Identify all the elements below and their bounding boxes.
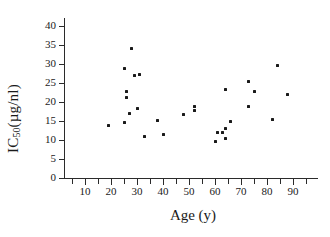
x-axis-minor-tick	[254, 179, 255, 184]
x-axis-tick-label-text: 60	[203, 186, 227, 197]
data-point	[276, 64, 279, 67]
data-point	[156, 119, 159, 122]
data-point	[107, 124, 110, 127]
y-axis-label-subscript: 50	[11, 127, 22, 137]
y-axis-tick-label: 15	[32, 115, 56, 127]
y-axis-tick-label: 35	[32, 39, 56, 51]
x-axis-tick-label: 60	[203, 186, 227, 199]
x-axis-tick-label-text: 50	[177, 186, 201, 197]
y-axis-tick-label: 25	[32, 77, 56, 89]
data-point	[253, 90, 256, 93]
x-axis-tick-label-text: 10	[73, 186, 97, 197]
x-axis-minor-tick	[98, 179, 99, 184]
y-axis-tick-label-text: 40	[34, 20, 56, 31]
data-point	[224, 127, 227, 130]
y-axis-tick-label-text: 10	[34, 134, 56, 145]
data-point	[216, 131, 219, 134]
y-axis-label: IC50 (µg/nl)	[0, 0, 26, 237]
x-axis-tick-label: 70	[229, 186, 253, 199]
y-axis-tick-label-text: 25	[34, 77, 56, 88]
x-axis-tick-label-text: 90	[281, 186, 305, 197]
x-axis-tick-label-text: 40	[151, 186, 175, 197]
y-axis-tick-label-text: 30	[34, 58, 56, 69]
y-axis-label-units: (µg/nl)	[5, 84, 22, 127]
x-axis-tick-label-text: 30	[125, 186, 149, 197]
data-point	[138, 73, 141, 76]
x-axis-tick-label-text: 70	[229, 186, 253, 197]
data-point	[221, 131, 224, 134]
data-point	[247, 105, 250, 108]
y-axis-tick-label-text: 15	[34, 115, 56, 126]
y-axis-tick-label-text: 5	[34, 153, 56, 164]
x-axis-tick-label: 90	[281, 186, 305, 199]
x-axis-minor-tick	[72, 179, 73, 184]
y-axis-tick-label: 30	[32, 58, 56, 70]
data-point	[247, 80, 250, 83]
x-axis-tick-label: 20	[99, 186, 123, 199]
data-point	[125, 96, 128, 99]
y-axis-tick-label: 10	[32, 134, 56, 146]
data-point	[162, 133, 165, 136]
x-axis-minor-tick	[228, 179, 229, 184]
x-axis-minor-tick	[150, 179, 151, 184]
y-axis-tick-label-text: 0	[34, 172, 56, 183]
x-axis-tick-label: 30	[125, 186, 149, 199]
plot-area	[64, 18, 318, 178]
x-axis-tick-label: 40	[151, 186, 175, 199]
x-axis-tick-label-text: 20	[99, 186, 123, 197]
data-point	[271, 118, 274, 121]
y-axis-tick-label: 5	[32, 153, 56, 165]
data-point	[123, 67, 126, 70]
y-axis-tick-label: 40	[32, 20, 56, 32]
x-axis-minor-tick	[176, 179, 177, 184]
data-point	[224, 88, 227, 91]
x-axis-minor-tick	[280, 179, 281, 184]
data-point	[224, 137, 227, 140]
x-axis-label: Age (y)	[64, 207, 322, 224]
x-axis-tick-label: 10	[73, 186, 97, 199]
data-point	[193, 105, 196, 108]
x-axis-minor-tick	[124, 179, 125, 184]
x-axis-tick-label-text: 80	[255, 186, 279, 197]
x-axis-minor-tick	[202, 179, 203, 184]
data-point	[214, 140, 217, 143]
x-axis-minor-tick	[306, 179, 307, 184]
data-point	[133, 74, 136, 77]
x-axis-tick-label: 80	[255, 186, 279, 199]
y-axis-label-base: IC	[5, 137, 22, 152]
y-axis-tick-label-text: 20	[34, 96, 56, 107]
data-point	[128, 112, 131, 115]
y-axis-tick	[59, 178, 64, 179]
data-point	[130, 47, 133, 50]
data-point	[286, 93, 289, 96]
y-axis-tick-label: 20	[32, 96, 56, 108]
scatter-plot-figure: IC50 (µg/nl) 0510152025303540 1020304050…	[0, 0, 330, 237]
x-axis-tick-label: 50	[177, 186, 201, 199]
y-axis-tick-label: 0	[32, 172, 56, 184]
data-point	[123, 121, 126, 124]
data-point	[193, 109, 196, 112]
data-point	[125, 90, 128, 93]
y-axis-tick-label-text: 35	[34, 39, 56, 50]
data-point	[229, 120, 232, 123]
data-point	[136, 107, 139, 110]
